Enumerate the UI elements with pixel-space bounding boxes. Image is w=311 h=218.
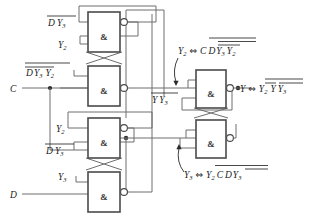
ann3-sub3b: 3 [237, 174, 242, 181]
gate-symbol-g2: & [100, 86, 108, 96]
gate-symbol-g1: & [100, 32, 108, 42]
ann1-sub2: 2 [183, 50, 187, 57]
gate-g6[interactable]: & [196, 120, 233, 158]
txt-Y-5: Y [152, 95, 159, 105]
ann2-Yb: Y [270, 84, 277, 94]
signal-label-g1-bottom: Y2 [58, 40, 67, 51]
signal-label-g5-mid: YY3 [151, 93, 178, 106]
svg-text:DY3: DY3 [47, 18, 66, 29]
gate-g4[interactable]: & [88, 172, 127, 212]
svg-text:Y3: Y3 [58, 172, 67, 183]
gate-symbol-g6: & [207, 139, 215, 149]
input-label-c: C [10, 84, 17, 94]
svg-text:Y2: Y2 [56, 124, 65, 135]
svg-text:DY3: DY3 [45, 146, 64, 157]
ann3-sub3: 3 [188, 174, 193, 181]
txt-D-2: D [25, 68, 33, 78]
signal-label-g2-top: DY3Y2 [25, 63, 70, 79]
ann2-sub2: 2 [264, 88, 268, 95]
txt-sub3-3: 3 [59, 150, 64, 157]
ann2-sub3: 3 [282, 88, 287, 95]
ann3-C: C [217, 170, 224, 180]
ann1-sub3: 3 [221, 50, 226, 57]
txt-sub2-3: 2 [61, 128, 65, 135]
inverting-bubble-g6 [227, 135, 234, 142]
txt-sub3-5: 3 [164, 99, 169, 106]
txt-sub3-4: 3 [62, 176, 67, 183]
inverting-bubble-g3 [121, 125, 128, 132]
inverting-bubble-g1 [121, 19, 128, 26]
inverting-bubble-g4 [121, 189, 128, 196]
gate-symbol-g5: & [207, 89, 215, 99]
gate-symbol-g3: & [100, 138, 108, 148]
svg-text:Y2⇔CDY3Y2: Y2⇔CDY3Y2 [178, 46, 236, 57]
input-label-d: D [9, 190, 17, 200]
signal-label-g1-top: DY3 [47, 16, 76, 29]
inverting-bubble-g2 [121, 85, 128, 92]
svg-text:DY3Y2: DY3Y2 [25, 68, 55, 79]
gate-g5[interactable]: & [196, 70, 233, 108]
gate-g1[interactable]: & [88, 12, 127, 52]
signal-label-g4-top: Y3 [58, 172, 67, 183]
ann3-D: D [224, 170, 232, 180]
ann2-Y: Y [240, 84, 247, 94]
ann1-D: D [207, 46, 215, 56]
ann2-equiv: ⇔ [248, 84, 256, 94]
txt-sub2-2: 2 [51, 72, 55, 79]
annotation-y-equiv: Y⇔Y2YY3 [240, 79, 303, 95]
svg-text:Y2: Y2 [58, 40, 67, 51]
ann1-sub2b: 2 [232, 50, 236, 57]
txt-sub2-b: 2 [63, 44, 67, 51]
ann1-C: C [200, 46, 207, 56]
signal-label-g3-top: Y2 [56, 124, 65, 135]
svg-text:YY3: YY3 [152, 95, 169, 106]
txt-D: D [47, 18, 55, 28]
ann1-equiv: ⇔ [190, 46, 198, 56]
gate-g2[interactable]: & [88, 66, 127, 106]
svg-text:Y⇔Y2YY3: Y⇔Y2YY3 [240, 84, 287, 95]
txt-D-3: D [45, 146, 53, 156]
logic-circuit-diagram: & & & & & & C D DY3 Y2 DY3Y2 [0, 0, 311, 218]
ann3-equiv: ⇔ [196, 170, 204, 180]
gate-symbol-g4: & [100, 192, 108, 202]
txt-sub3: 3 [61, 22, 66, 29]
txt-sub3-2: 3 [38, 72, 43, 79]
svg-text:Y3⇔Y2CDY3: Y3⇔Y2CDY3 [184, 170, 242, 181]
inverting-bubble-g5 [227, 85, 234, 92]
ann3-sub2: 2 [211, 174, 215, 181]
